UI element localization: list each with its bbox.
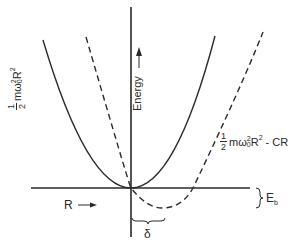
harmonic-curve-label: 1 2 mω20R2 bbox=[7, 67, 27, 110]
energy-arrow-head-icon bbox=[136, 47, 142, 56]
fraction-half: 1 2 bbox=[7, 103, 27, 110]
binding-energy-brace bbox=[256, 188, 263, 208]
displacement-brace bbox=[132, 218, 165, 224]
binding-energy-label: Eb bbox=[266, 192, 278, 206]
shifted-curve-label: 1 2 mω20R2 - CR bbox=[220, 132, 288, 152]
energy-axis-label: Energy bbox=[132, 76, 143, 111]
diagram-canvas bbox=[0, 0, 303, 247]
fraction-half: 1 2 bbox=[220, 132, 227, 152]
displacement-label: δ bbox=[144, 228, 151, 240]
r-axis-label: R bbox=[64, 199, 73, 211]
harmonic-potential-curve bbox=[43, 36, 215, 188]
r-arrow-head-icon bbox=[90, 203, 97, 208]
